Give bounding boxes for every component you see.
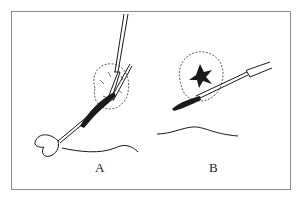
illustration: [0, 0, 301, 198]
panel-a-skin-line: [62, 145, 138, 152]
panel-a-label: A: [95, 161, 104, 174]
panel-a-mass: [94, 64, 129, 109]
panel-a-drawing: [35, 14, 138, 156]
panel-b-skin-line: [157, 127, 238, 136]
panel-b-label: B: [209, 161, 218, 174]
panel-b-drawing: [157, 52, 272, 136]
panel-b-star-lesion: [189, 64, 212, 88]
panel-b-tunnel: [172, 96, 201, 111]
